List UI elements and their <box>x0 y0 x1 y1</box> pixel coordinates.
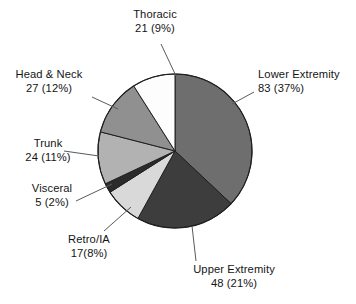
slice-label-thoracic-value: 21 (9%) <box>115 22 195 36</box>
slice-label-visceral-value: 5 (2%) <box>16 196 88 210</box>
pie-chart: Thoracic 21 (9%) Lower Extremity 83 (37%… <box>0 0 356 304</box>
slice-label-lower-extremity: Lower Extremity 83 (37%) <box>258 68 354 95</box>
slice-label-trunk-name: Trunk <box>12 137 84 151</box>
slice-label-head-neck-name: Head & Neck <box>6 68 92 82</box>
leader-line-thoracic <box>161 44 176 76</box>
leader-line-lower-extremity <box>232 92 254 104</box>
slice-label-thoracic: Thoracic 21 (9%) <box>115 8 195 35</box>
slice-label-lower-extremity-name: Lower Extremity <box>258 68 354 82</box>
leader-line-upper-extremity <box>192 226 196 261</box>
slice-label-upper-extremity: Upper Extremity 48 (21%) <box>178 263 290 290</box>
slice-label-upper-extremity-name: Upper Extremity <box>178 263 290 277</box>
slice-label-head-neck-value: 27 (12%) <box>6 82 92 96</box>
slice-label-head-neck: Head & Neck 27 (12%) <box>6 68 92 95</box>
leader-line-retro-ia <box>104 207 131 231</box>
slice-label-retro-ia-name: Retro/IA <box>52 233 126 247</box>
slice-label-visceral: Visceral 5 (2%) <box>16 182 88 209</box>
slice-label-lower-extremity-value: 83 (37%) <box>258 82 354 96</box>
slice-label-retro-ia-value: 17(8%) <box>52 247 126 261</box>
slice-label-retro-ia: Retro/IA 17(8%) <box>52 233 126 260</box>
slice-label-visceral-name: Visceral <box>16 182 88 196</box>
pie-slice-group <box>98 74 252 228</box>
slice-label-trunk: Trunk 24 (11%) <box>12 137 84 164</box>
slice-label-thoracic-name: Thoracic <box>115 8 195 22</box>
slice-label-trunk-value: 24 (11%) <box>12 151 84 165</box>
slice-label-upper-extremity-value: 48 (21%) <box>178 277 290 291</box>
